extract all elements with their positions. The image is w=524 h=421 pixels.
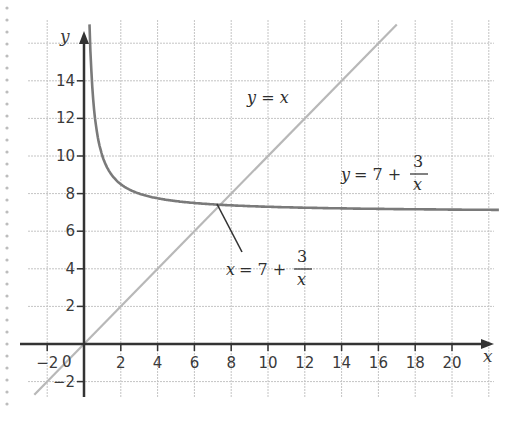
plot-series [34,24,499,394]
y-tick-label: −2 [53,373,75,391]
x-tick-label: 18 [406,354,425,372]
x-tick-label: 10 [258,354,277,372]
y-tick-label: 2 [65,297,75,315]
x-tick-label: 6 [190,354,200,372]
y-tick-label: 8 [65,185,75,203]
y-tick-label: 6 [65,222,75,240]
curve-label-eq: = 7 + [354,165,401,184]
x-tick-label: 20 [442,354,461,372]
svg-text:y= 7 +: y= 7 + [340,165,401,184]
y-tick-label: 12 [56,109,75,127]
x-tick-label: 12 [295,354,314,372]
intersection-label: x= 7 + 3 x [226,247,312,289]
y-tick-label: 14 [56,72,75,90]
intersection-label-num: 3 [297,247,307,266]
origin-label: 0 [62,353,72,371]
x-tick-label: 14 [332,354,351,372]
x-tick-label: −2 [36,354,58,372]
y-axis-label: y [59,26,70,46]
curve-label-den: x [413,175,422,194]
x-axis-label: x [483,346,493,366]
x-tick-label: 8 [226,354,236,372]
x-tick-label: 4 [153,354,163,372]
curve-label-lhs: y [340,165,351,184]
intersection-label-lhs: x [226,260,235,279]
intersection-pointer [217,204,242,252]
y-tick-label: 10 [56,147,75,165]
x-tick-label: 2 [116,354,126,372]
line-label: y = x [246,88,289,107]
series-curve-y-equals-7-plus-3-over-x [90,24,499,210]
y-tick-label: 4 [65,260,75,278]
svg-text:x= 7 +: x= 7 + [226,260,286,279]
intersection-label-eq: = 7 + [239,260,286,279]
curve-label-num: 3 [413,152,423,171]
chart-canvas: −22468101214161820−22468101214 x y 0 y =… [0,0,524,421]
dotted-margin [5,6,8,405]
x-tick-label: 16 [369,354,388,372]
intersection-label-den: x [297,270,306,289]
y-axis-arrow-icon [79,31,89,44]
